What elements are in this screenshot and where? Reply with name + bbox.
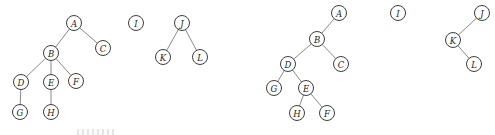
node-label-D: D [284, 60, 292, 70]
node-label-C: C [338, 60, 345, 70]
binary-tree-group: ABCDEFGHIJKL [267, 6, 490, 121]
tree-node-C: C [96, 41, 111, 56]
tree-node-E: E [299, 81, 314, 96]
node-label-F: F [72, 77, 80, 87]
node-label-A: A [335, 9, 342, 19]
tree-node-L: L [193, 50, 208, 65]
tree-node-K: K [446, 33, 461, 48]
forest-and-binary-tree-diagram: ABCDEFGHIJKLABCDEFGHIJKL [0, 0, 495, 135]
tree-node-H: H [290, 106, 305, 121]
tree-node-A: A [67, 16, 82, 31]
tree-node-A: A [332, 6, 347, 21]
tree-node-G: G [13, 105, 28, 120]
node-label-A: A [70, 19, 77, 29]
node-label-E: E [47, 78, 55, 88]
node-label-G: G [271, 84, 278, 94]
tree-node-D: D [14, 75, 29, 90]
tree-node-C: C [334, 57, 349, 72]
node-label-K: K [159, 53, 167, 63]
node-label-E: E [302, 84, 310, 94]
node-label-I: I [395, 9, 400, 19]
tree-node-H: H [44, 105, 59, 120]
node-label-H: H [292, 109, 301, 119]
node-label-C: C [100, 44, 107, 54]
tree-node-G: G [267, 81, 282, 96]
tree-node-K: K [156, 50, 171, 65]
tree-node-J: J [475, 6, 490, 21]
node-label-L: L [196, 53, 203, 63]
tree-node-D: D [281, 57, 296, 72]
node-label-G: G [17, 108, 24, 118]
node-label-L: L [470, 60, 477, 70]
tree-node-B: B [44, 46, 59, 61]
tree-node-E: E [44, 75, 59, 90]
node-label-I: I [133, 19, 138, 29]
tree-node-B: B [310, 32, 325, 47]
node-label-D: D [17, 78, 25, 88]
tree-node-F: F [69, 74, 84, 89]
figure-canvas: ABCDEFGHIJKLABCDEFGHIJKL [0, 0, 495, 135]
node-label-F: F [323, 109, 331, 119]
node-label-B: B [313, 35, 320, 45]
forest-group: ABCDEFGHIJKL [13, 16, 208, 120]
node-label-B: B [47, 49, 54, 59]
tree-node-J: J [175, 16, 190, 31]
tree-node-F: F [320, 106, 335, 121]
tree-node-I: I [391, 6, 406, 21]
cutoff-caption-fragment [77, 129, 115, 135]
tree-node-L: L [467, 57, 482, 72]
node-label-K: K [449, 36, 457, 46]
tree-node-I: I [129, 16, 144, 31]
node-label-H: H [46, 108, 55, 118]
